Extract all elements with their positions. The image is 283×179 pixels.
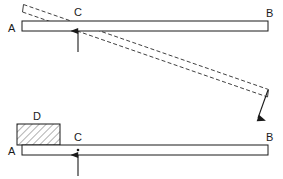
bottom-label-B: B	[266, 131, 273, 143]
bottom-label-D: D	[33, 110, 41, 122]
dashed-rotated-beam	[23, 5, 269, 98]
bottom-label-C: C	[74, 131, 82, 143]
bottom-diagram: A D C B	[8, 110, 273, 176]
top-label-C: C	[74, 6, 82, 18]
pivot-point-dot	[77, 149, 80, 152]
top-diagram: A C B	[8, 5, 273, 119]
top-label-A: A	[8, 22, 16, 34]
bottom-beam	[22, 145, 268, 155]
mechanics-diagram: A C B A D C B	[0, 0, 283, 179]
top-beam	[22, 21, 268, 31]
dashed-beam-upper-edge	[24, 5, 269, 90]
dashed-beam-left-cap	[23, 5, 24, 13]
top-label-B: B	[266, 7, 273, 19]
bottom-label-A: A	[8, 145, 16, 157]
dashed-beam-end-caps	[23, 5, 269, 98]
block-D	[17, 124, 60, 145]
figure-canvas: A C B A D C B	[0, 0, 283, 179]
